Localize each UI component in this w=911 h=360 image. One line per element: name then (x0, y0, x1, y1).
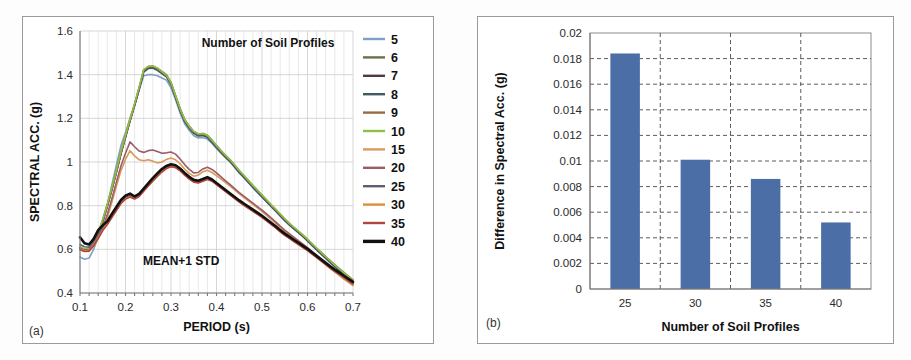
y-tick-label: 0.018 (553, 53, 582, 65)
x-tick-label: 0.2 (118, 301, 134, 313)
x-axis-title: Number of Soil Profiles (661, 320, 799, 334)
plot-annotation: MEAN+1 STD (143, 254, 220, 268)
panel-tag-a: (a) (29, 324, 44, 338)
legend-title: Number of Soil Profiles (202, 36, 335, 50)
x-tick-label: 25 (619, 297, 632, 309)
legend-label-25: 25 (391, 180, 405, 194)
y-tick-label: 0.4 (57, 287, 74, 299)
y-tick-label: 0.012 (553, 129, 582, 141)
y-tick-label: 1.4 (57, 69, 74, 81)
legend-label-5: 5 (391, 33, 398, 47)
x-tick-label: 35 (759, 297, 772, 309)
x-tick-label: 0.3 (163, 301, 179, 313)
bar-40 (821, 222, 851, 289)
y-tick-label: 0.02 (560, 27, 582, 39)
legend-label-7: 7 (391, 69, 398, 83)
bar-30 (681, 160, 711, 289)
bar-chart-svg: 00.0020.0040.0060.0080.010.0120.0140.016… (478, 17, 893, 343)
x-tick-label: 40 (829, 297, 842, 309)
legend-label-35: 35 (391, 217, 405, 231)
y-axis-title: SPECTRAL ACC. (g) (28, 102, 42, 222)
y-tick-label: 0 (576, 283, 582, 295)
x-tick-label: 30 (689, 297, 702, 309)
x-tick-label: 0.7 (345, 301, 361, 313)
legend-label-10: 10 (391, 125, 405, 139)
legend-label-9: 9 (391, 106, 398, 120)
panel-tag-b: (b) (486, 316, 501, 330)
y-tick-label: 1.2 (57, 112, 73, 124)
legend-label-20: 20 (391, 161, 405, 175)
y-tick-label: 0.8 (57, 200, 73, 212)
legend-label-30: 30 (391, 198, 405, 212)
y-tick-label: 0.01 (560, 155, 582, 167)
bar-35 (751, 179, 781, 289)
legend-label-8: 8 (391, 88, 398, 102)
line-chart-svg: 0.10.20.30.40.50.60.70.40.60.811.21.41.6… (23, 17, 433, 343)
y-axis-title: Difference in Spectral Acc. (g) (493, 72, 507, 249)
figure-container: 0.10.20.30.40.50.60.70.40.60.811.21.41.6… (0, 0, 911, 360)
x-axis-title: PERIOD (s) (183, 320, 250, 334)
bar-25 (610, 53, 640, 289)
x-tick-label: 0.4 (209, 301, 226, 313)
y-tick-label: 0.008 (553, 181, 582, 193)
y-tick-label: 0.006 (553, 206, 582, 218)
panel-b-bar-chart: 00.0020.0040.0060.0080.010.0120.0140.016… (477, 16, 894, 344)
y-tick-label: 0.016 (553, 78, 582, 90)
legend-label-40: 40 (391, 235, 405, 249)
y-tick-label: 1.6 (57, 25, 73, 37)
y-tick-label: 1 (67, 156, 73, 168)
y-tick-label: 0.014 (553, 104, 582, 116)
x-tick-label: 0.6 (300, 301, 316, 313)
y-tick-label: 0.002 (553, 257, 582, 269)
panel-a-line-chart: 0.10.20.30.40.50.60.70.40.60.811.21.41.6… (22, 16, 434, 344)
y-tick-label: 0.6 (57, 243, 73, 255)
legend-label-6: 6 (391, 51, 398, 65)
x-tick-label: 0.5 (254, 301, 270, 313)
legend-label-15: 15 (391, 143, 405, 157)
y-tick-label: 0.004 (553, 232, 582, 244)
x-tick-label: 0.1 (72, 301, 88, 313)
